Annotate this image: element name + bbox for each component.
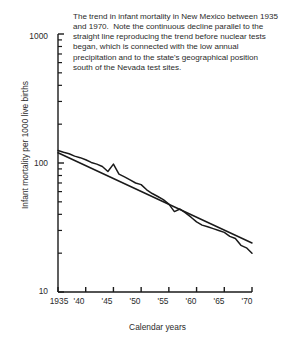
- y-tick-label: 100: [10, 158, 48, 168]
- chart-caption: The trend in infant mortality in New Mex…: [73, 12, 278, 73]
- y-axis-tick-marks: [58, 34, 64, 292]
- chart-figure: The trend in infant mortality in New Mex…: [0, 0, 287, 347]
- y-tick-label: 1000: [10, 31, 48, 41]
- y-tick-label: 10: [10, 286, 48, 296]
- x-axis-title: Calendar years: [60, 322, 255, 332]
- x-axis-tick-marks: [58, 287, 252, 292]
- x-tick-label: '70: [231, 296, 263, 306]
- y-axis-title: Infant mortality per 1000 live births: [20, 45, 30, 245]
- series-trend-line: [58, 153, 252, 243]
